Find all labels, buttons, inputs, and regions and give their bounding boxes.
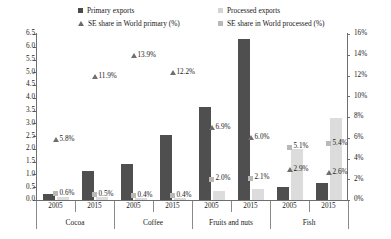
group-separator (36, 201, 37, 229)
y-axis-right-tick (347, 34, 350, 35)
marker-se-share-processed (326, 141, 331, 146)
year-separator (309, 201, 310, 212)
square-light-icon (218, 8, 223, 13)
legend-label: Processed exports (227, 6, 280, 15)
data-label-se-share-primary: 6.9% (216, 124, 231, 131)
y-axis-right-tick (347, 55, 350, 56)
data-label-se-share-primary: 6.0% (255, 134, 270, 141)
y-axis-right-tick (347, 159, 350, 160)
bar-primary-exports (316, 183, 328, 200)
data-label-se-share-primary: 2.6% (333, 169, 348, 176)
bar-processed-exports (291, 149, 303, 200)
x-axis-year-label: 2005 (114, 202, 153, 211)
bar-processed-exports (330, 118, 342, 200)
data-label-se-share-processed: 5.1% (294, 143, 309, 150)
legend-item-processed-exports: Processed exports (218, 6, 348, 15)
y-axis-left-label: 2.5 (26, 133, 35, 140)
y-axis-left-label: 4.5 (26, 81, 35, 88)
marker-se-share-primary (92, 74, 98, 79)
y-axis-left-label: 5.0 (26, 69, 35, 76)
y-axis-left-label: 3.5 (26, 107, 35, 114)
x-axis-year-label: 2005 (192, 202, 231, 211)
x-axis-year-label: 2015 (231, 202, 270, 211)
year-separator (75, 201, 76, 212)
y-axis-left-label: 6.0 (26, 43, 35, 50)
data-label-se-share-primary: 12.2% (177, 69, 196, 76)
square-dark-icon (78, 8, 83, 13)
marker-se-share-primary (326, 170, 332, 175)
plot-area: 0.00.51.01.52.02.53.03.54.04.55.05.56.06… (36, 33, 348, 201)
marker-se-share-primary (209, 125, 215, 130)
marker-se-share-processed (170, 193, 175, 198)
marker-se-share-primary (170, 70, 176, 75)
y-axis-left-label: 5.5 (26, 56, 35, 63)
y-axis-right-label: 14% (354, 51, 367, 58)
marker-se-share-primary (248, 135, 254, 140)
bar-processed-exports (252, 189, 264, 200)
x-axis-group-label: Coffee (114, 218, 192, 227)
triangle-icon (78, 21, 84, 26)
data-label-se-share-primary: 11.9% (99, 73, 117, 80)
bar-primary-exports (199, 107, 211, 200)
data-label-se-share-processed: 2.0% (216, 175, 231, 182)
year-separator (231, 201, 232, 212)
bar-primary-exports (160, 135, 172, 200)
x-axis-year-label: 2015 (75, 202, 114, 211)
x-axis-year-label: 2015 (309, 202, 348, 211)
legend-row-1: Primary exports Processed exports (78, 4, 348, 17)
x-axis-group-label: Cocoa (36, 218, 114, 227)
x-axis-group-label: Fruits and nuts (192, 218, 270, 227)
y-axis-left-label: 0.0 (26, 196, 35, 203)
bar-primary-exports (277, 187, 289, 200)
data-label-se-share-primary: 13.9% (138, 52, 157, 59)
x-axis-year-label: 2005 (270, 202, 309, 211)
y-axis-left-line (36, 33, 37, 201)
y-axis-right-tick (347, 117, 350, 118)
y-axis-right-tick (347, 179, 350, 180)
marker-se-share-processed (131, 193, 136, 198)
y-axis-right-label: 8% (354, 113, 364, 120)
y-axis-left-label: 6.5 (26, 30, 35, 37)
legend-label: SE share in World processed (%) (227, 19, 325, 28)
data-label-se-share-processed: 5.4% (333, 140, 348, 147)
y-axis-right-tick (347, 76, 350, 77)
y-axis-left-label: 0.5 (26, 184, 35, 191)
y-axis-right-tick (347, 96, 350, 97)
y-axis-right-label: 4% (354, 155, 364, 162)
data-label-se-share-primary: 5.8% (60, 136, 75, 143)
marker-se-share-processed (248, 176, 253, 181)
data-label-se-share-primary: 2.9% (294, 166, 309, 173)
group-separator (270, 201, 271, 229)
y-axis-right-label: 0% (354, 196, 364, 203)
y-axis-right-label: 12% (354, 72, 367, 79)
legend-label: SE share in World primary (%) (88, 19, 180, 28)
square-mid-icon (218, 21, 223, 26)
legend-item-se-share-processed: SE share in World processed (%) (218, 19, 348, 28)
category-axis: 20052015200520152005201520052015CocoaCof… (36, 201, 348, 237)
marker-se-share-primary (287, 167, 293, 172)
data-label-se-share-processed: 2.1% (255, 174, 270, 181)
marker-se-share-processed (53, 191, 58, 196)
group-separator (114, 201, 115, 229)
marker-se-share-primary (53, 137, 59, 142)
marker-se-share-processed (287, 145, 292, 150)
marker-se-share-processed (209, 177, 214, 182)
legend-label: Primary exports (87, 6, 134, 15)
chart-legend: Primary exports Processed exports SE sha… (78, 4, 348, 30)
year-separator (153, 201, 154, 212)
y-axis-left-label: 4.0 (26, 94, 35, 101)
bar-processed-exports (213, 191, 225, 200)
y-axis-left-label: 2.0 (26, 145, 35, 152)
data-label-se-share-processed: 0.6% (60, 190, 75, 197)
y-axis-right-label: 10% (354, 93, 367, 100)
y-axis-right-tick (347, 138, 350, 139)
y-axis-left-label: 1.0 (26, 171, 35, 178)
data-label-se-share-processed: 0.5% (99, 191, 114, 198)
y-axis-left-label: 3.0 (26, 120, 35, 127)
data-label-se-share-processed: 0.4% (138, 192, 153, 199)
x-axis-year-label: 2015 (153, 202, 192, 211)
legend-item-se-share-primary: SE share in World primary (%) (78, 19, 218, 28)
group-separator (348, 201, 349, 229)
bar-processed-exports (57, 197, 69, 200)
y-axis-right-label: 16% (354, 30, 367, 37)
